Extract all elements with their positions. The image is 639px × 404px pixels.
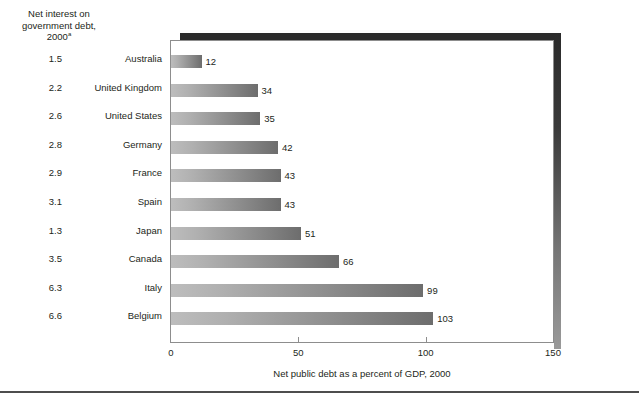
bar-row: 66 bbox=[171, 255, 553, 268]
row-label: 3.5Canada bbox=[0, 252, 168, 281]
bar-value-label: 51 bbox=[305, 227, 316, 240]
interest-value: 1.3 bbox=[26, 225, 62, 236]
bar bbox=[171, 112, 260, 125]
x-axis-tick-label: 0 bbox=[151, 347, 191, 358]
bar-row: 43 bbox=[171, 169, 553, 182]
side-column-header-line2: government debt, bbox=[0, 20, 118, 32]
bar-row: 51 bbox=[171, 227, 553, 240]
side-column-header-line1: Net interest on bbox=[0, 8, 118, 20]
x-axis-tick bbox=[298, 337, 299, 342]
bar-row: 103 bbox=[171, 312, 553, 325]
bar-row: 42 bbox=[171, 141, 553, 154]
interest-value: 6.6 bbox=[26, 310, 62, 321]
bar-value-label: 43 bbox=[285, 169, 296, 182]
bar-value-label: 35 bbox=[264, 112, 275, 125]
plot-shadow-right bbox=[554, 33, 561, 349]
bar bbox=[171, 198, 281, 211]
row-label: 6.6Belgium bbox=[0, 309, 168, 338]
side-column-header: Net interest on government debt, 2000a bbox=[0, 8, 118, 43]
interest-value: 2.9 bbox=[26, 167, 62, 178]
x-axis-title: Net public debt as a percent of GDP, 200… bbox=[170, 368, 554, 379]
row-label: 2.9France bbox=[0, 166, 168, 195]
bar bbox=[171, 312, 433, 325]
x-axis-tick-label: 50 bbox=[278, 347, 318, 358]
x-axis-tick bbox=[426, 337, 427, 342]
interest-value: 2.6 bbox=[26, 110, 62, 121]
row-label: 6.3Italy bbox=[0, 281, 168, 310]
interest-value: 2.2 bbox=[26, 82, 62, 93]
footnote-marker: a bbox=[68, 31, 71, 37]
row-label: 2.8Germany bbox=[0, 138, 168, 167]
row-label: 2.6United States bbox=[0, 109, 168, 138]
row-label: 3.1Spain bbox=[0, 195, 168, 224]
bar-value-label: 42 bbox=[282, 141, 293, 154]
x-axis-tick-label: 150 bbox=[533, 347, 573, 358]
plot-area: 123435424343516699103 bbox=[170, 40, 554, 343]
bar bbox=[171, 255, 339, 268]
bar-row: 12 bbox=[171, 55, 553, 68]
country-label: Spain bbox=[66, 196, 162, 207]
country-label: Germany bbox=[66, 139, 162, 150]
bar-value-label: 12 bbox=[206, 55, 217, 68]
bar-value-label: 103 bbox=[437, 312, 453, 325]
bar-row: 34 bbox=[171, 84, 553, 97]
interest-value: 6.3 bbox=[26, 282, 62, 293]
bar bbox=[171, 169, 281, 182]
country-label: Japan bbox=[66, 225, 162, 236]
row-label-column: 1.5Australia2.2United Kingdom2.6United S… bbox=[0, 52, 168, 338]
bar-value-label: 34 bbox=[262, 84, 273, 97]
interest-value: 2.8 bbox=[26, 139, 62, 150]
x-axis-tick-label: 100 bbox=[406, 347, 446, 358]
bar-row: 99 bbox=[171, 284, 553, 297]
country-label: Belgium bbox=[66, 310, 162, 321]
plot-shadow-top bbox=[180, 33, 561, 40]
bar-value-label: 43 bbox=[285, 198, 296, 211]
country-label: Australia bbox=[66, 53, 162, 64]
bar bbox=[171, 141, 278, 154]
bar-value-label: 99 bbox=[427, 284, 438, 297]
country-label: Canada bbox=[66, 253, 162, 264]
interest-value: 3.5 bbox=[26, 253, 62, 264]
bar-row: 43 bbox=[171, 198, 553, 211]
country-label: United States bbox=[66, 110, 162, 121]
interest-value: 3.1 bbox=[26, 196, 62, 207]
bar bbox=[171, 84, 258, 97]
bar-row: 35 bbox=[171, 112, 553, 125]
side-column-header-year: 2000 bbox=[47, 31, 68, 42]
row-label: 2.2United Kingdom bbox=[0, 81, 168, 110]
country-label: Italy bbox=[66, 282, 162, 293]
country-label: France bbox=[66, 167, 162, 178]
bar bbox=[171, 227, 301, 240]
country-label: United Kingdom bbox=[66, 82, 162, 93]
bar-value-label: 66 bbox=[343, 255, 354, 268]
bottom-divider bbox=[0, 391, 639, 393]
bar bbox=[171, 55, 202, 68]
interest-value: 1.5 bbox=[26, 53, 62, 64]
row-label: 1.3Japan bbox=[0, 224, 168, 253]
row-label: 1.5Australia bbox=[0, 52, 168, 81]
side-column-header-line3: 2000a bbox=[0, 31, 118, 43]
bar bbox=[171, 284, 423, 297]
